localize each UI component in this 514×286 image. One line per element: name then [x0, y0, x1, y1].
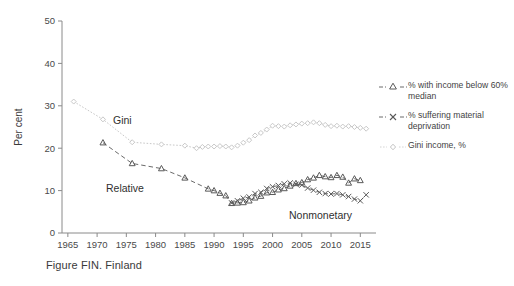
x-tick-label: 2005 — [291, 239, 312, 250]
data-point-diamond — [229, 145, 234, 150]
data-point-diamond — [329, 124, 334, 129]
legend-item-material-deprivation: % suffering material deprivation — [378, 110, 514, 131]
data-point-diamond — [299, 121, 304, 126]
data-point-triangle — [100, 140, 106, 145]
data-point-diamond — [206, 144, 211, 149]
chart-legend: % with income below 60% median % sufferi… — [378, 80, 514, 162]
data-point-diamond — [340, 124, 345, 129]
legend-item-income-below-median: % with income below 60% median — [378, 80, 514, 101]
legend-label: Gini income, % — [408, 140, 466, 151]
data-point-diamond — [293, 122, 298, 127]
data-point-diamond — [241, 140, 246, 145]
relative-label: Relative — [106, 182, 144, 194]
gini-label: Gini — [113, 114, 132, 126]
data-point-diamond — [258, 130, 263, 135]
y-axis-title: Per cent — [13, 108, 24, 145]
data-point-diamond — [182, 143, 187, 148]
y-tick-label: 10 — [44, 185, 55, 196]
data-point-diamond — [194, 146, 199, 151]
data-point-diamond — [159, 142, 164, 147]
data-point-diamond — [223, 144, 228, 149]
data-point-diamond — [317, 121, 322, 126]
data-point-diamond — [200, 144, 205, 149]
y-tick-label: 30 — [44, 100, 55, 111]
legend-label: % suffering material deprivation — [408, 110, 514, 131]
data-point-diamond — [217, 144, 222, 149]
data-point-diamond — [364, 126, 369, 131]
figure-container: 0102030405019651970197519801985199019952… — [0, 0, 514, 286]
data-point-diamond — [305, 121, 310, 126]
x-tick-label: 1985 — [174, 239, 195, 250]
data-point-triangle — [316, 172, 322, 177]
x-tick-label: 1965 — [57, 239, 78, 250]
cross-dashed-marker-icon — [378, 111, 408, 123]
data-point-triangle — [340, 174, 346, 179]
data-point-diamond — [130, 140, 135, 145]
x-tick-label: 2010 — [320, 239, 341, 250]
data-point-diamond — [358, 125, 363, 130]
x-tick-label: 2000 — [262, 239, 283, 250]
data-point-diamond — [71, 99, 76, 104]
y-tick-label: 0 — [50, 227, 55, 238]
triangle-dashed-marker-icon — [378, 81, 408, 93]
data-point-diamond — [235, 143, 240, 148]
data-point-diamond — [270, 123, 275, 128]
y-tick-label: 20 — [44, 143, 55, 154]
data-point-diamond — [311, 120, 316, 125]
data-point-diamond — [352, 125, 357, 130]
data-point-diamond — [276, 124, 281, 129]
nonmonetary-label: Nonmonetary — [289, 209, 353, 221]
figure-caption: Figure FIN. Finland — [46, 259, 142, 271]
legend-item-gini-income: Gini income, % — [378, 140, 514, 153]
x-tick-label: 1975 — [116, 239, 137, 250]
data-point-diamond — [323, 122, 328, 127]
y-tick-label: 40 — [44, 58, 55, 69]
data-point-diamond — [212, 144, 217, 149]
legend-label: % with income below 60% median — [408, 80, 514, 101]
diamond-dotted-marker-icon — [378, 141, 408, 153]
x-tick-label: 2015 — [350, 239, 371, 250]
x-tick-label: 1970 — [87, 239, 108, 250]
data-point-diamond — [346, 124, 351, 129]
data-point-diamond — [334, 123, 339, 128]
y-tick-label: 50 — [44, 15, 55, 26]
data-point-triangle — [129, 160, 135, 165]
x-tick-label: 1980 — [145, 239, 166, 250]
data-point-diamond — [264, 127, 269, 132]
x-tick-label: 1995 — [233, 239, 254, 250]
x-tick-label: 1990 — [204, 239, 225, 250]
data-point-diamond — [288, 123, 293, 128]
data-point-diamond — [282, 124, 287, 129]
